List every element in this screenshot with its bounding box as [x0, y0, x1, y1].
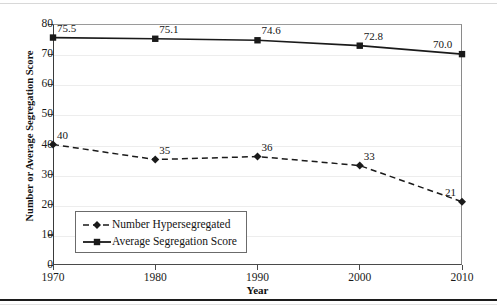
- segregation-line-chart: Number or Average Segregation Score 0102…: [0, 0, 497, 306]
- data-point-label: 40: [57, 130, 68, 141]
- y-tick-label: 60: [11, 78, 53, 90]
- x-tick-label: 1970: [23, 271, 83, 284]
- y-tick-label: 0: [11, 259, 53, 271]
- x-tick-label: 1980: [125, 271, 185, 284]
- page-rule-bottom-hairline: [0, 304, 497, 305]
- x-axis-title: Year: [53, 284, 462, 297]
- x-tick-mark: [155, 265, 156, 270]
- gridline: [54, 85, 461, 86]
- y-tick-label: 70: [11, 48, 53, 60]
- gridline: [54, 176, 461, 177]
- data-point-label: 36: [262, 142, 273, 153]
- x-tick-mark: [462, 265, 463, 270]
- legend-diamond-icon: [82, 217, 112, 233]
- legend-item-label: Average Segregation Score: [112, 235, 237, 248]
- gridline: [54, 55, 461, 56]
- y-tick-label: 10: [11, 229, 53, 241]
- y-tick-label: 40: [11, 139, 53, 151]
- legend-item-1: Number Hypersegregated: [82, 216, 240, 233]
- x-tick-mark: [257, 265, 258, 270]
- data-point-label: 72.8: [364, 31, 383, 42]
- data-point-label: 75.5: [57, 23, 76, 34]
- data-point-label: 75.1: [159, 24, 178, 35]
- x-tick-mark: [359, 265, 360, 270]
- x-tick-label: 1990: [228, 271, 288, 284]
- y-tick-label: 50: [11, 108, 53, 120]
- y-tick-label: 30: [11, 169, 53, 181]
- data-point-label: 35: [159, 145, 170, 156]
- page-rule-bottom: [0, 299, 497, 301]
- gridline: [54, 146, 461, 147]
- gridline: [54, 115, 461, 116]
- legend-item-2: Average Segregation Score: [82, 233, 240, 250]
- y-tick-label: 80: [11, 18, 53, 30]
- data-point-label: 33: [364, 151, 375, 162]
- gridline: [54, 206, 461, 207]
- x-tick-mark: [53, 265, 54, 270]
- y-tick-label: 20: [11, 199, 53, 211]
- data-point-label: 74.6: [262, 25, 281, 36]
- x-tick-label: 2000: [330, 271, 390, 284]
- legend-item-label: Number Hypersegregated: [112, 218, 230, 231]
- legend-square-icon: [82, 234, 112, 250]
- data-point-label: 70.0: [433, 39, 452, 50]
- x-tick-label: 2010: [432, 271, 492, 284]
- data-point-label: 21: [445, 187, 456, 198]
- chart-legend: Number HypersegregatedAverage Segregatio…: [75, 211, 247, 253]
